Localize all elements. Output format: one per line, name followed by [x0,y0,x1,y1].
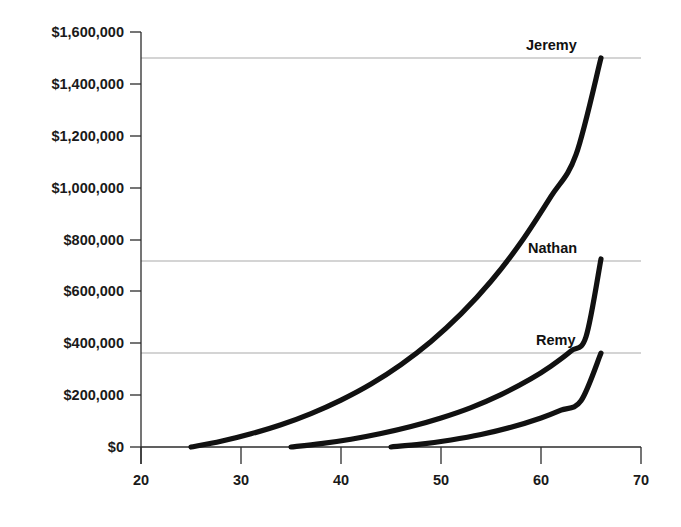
y-axis [130,32,141,464]
y-tick-label-1200000: $1,200,000 [51,128,124,144]
series-label-nathan: Nathan [528,240,577,256]
y-tick-label-600000: $600,000 [64,283,124,299]
y-tick-label-1600000: $1,600,000 [51,24,124,40]
x-tick-label-50: 50 [433,472,449,488]
x-tick-label-40: 40 [333,472,349,488]
x-tick-label-70: 70 [633,472,649,488]
y-tick-label-800000: $800,000 [64,232,124,248]
series-label-jeremy: Jeremy [526,37,577,53]
x-tick-label-60: 60 [533,472,549,488]
series-curve-remy [391,353,601,447]
x-tick-label-20: 20 [133,472,149,488]
x-tick-label-30: 30 [233,472,249,488]
chart-plot-area: $1,600,000 $1,400,000 $1,200,000 $1,000,… [0,0,681,527]
y-tick-labels: $1,600,000 $1,400,000 $1,200,000 $1,000,… [51,24,124,455]
y-tick-label-400000: $400,000 [64,335,124,351]
y-tick-label-1000000: $1,000,000 [51,180,124,196]
series-label-remy: Remy [536,332,576,348]
gridlines [141,58,641,353]
x-tick-labels: 20 30 40 50 60 70 [133,472,649,488]
y-tick-label-1400000: $1,400,000 [51,76,124,92]
y-tick-label-0: $0 [108,439,124,455]
chart-container: $1,600,000 $1,400,000 $1,200,000 $1,000,… [0,0,681,527]
y-tick-label-200000: $200,000 [64,387,124,403]
